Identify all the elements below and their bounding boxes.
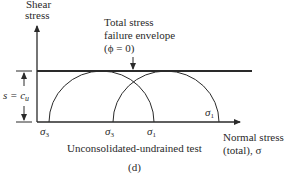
circle1-sigma1-label: σ1 bbox=[147, 125, 156, 139]
envelope-label-line1: Total stress bbox=[104, 16, 154, 28]
x-axis-label-line2: (total), σ bbox=[223, 144, 261, 157]
envelope-label-line3: (ϕ = 0) bbox=[104, 42, 135, 55]
x-axis-label-line1: Normal stress bbox=[223, 131, 284, 143]
circle1-sigma3-label: σ3 bbox=[40, 125, 49, 139]
envelope-label-line2: failure envelope bbox=[104, 29, 175, 41]
circle2-sigma1-label: σ1 bbox=[205, 106, 214, 120]
circle2-sigma3-label: σ3 bbox=[105, 125, 114, 139]
panel-label: (d) bbox=[128, 161, 141, 174]
figure-caption: Unconsolidated-undrained test bbox=[67, 142, 202, 154]
strength-label: s = cu bbox=[3, 89, 29, 103]
mohr-circle-diagram: Shear stress Total stress failure envelo… bbox=[0, 0, 289, 179]
y-axis-label-line2: stress bbox=[25, 9, 49, 21]
